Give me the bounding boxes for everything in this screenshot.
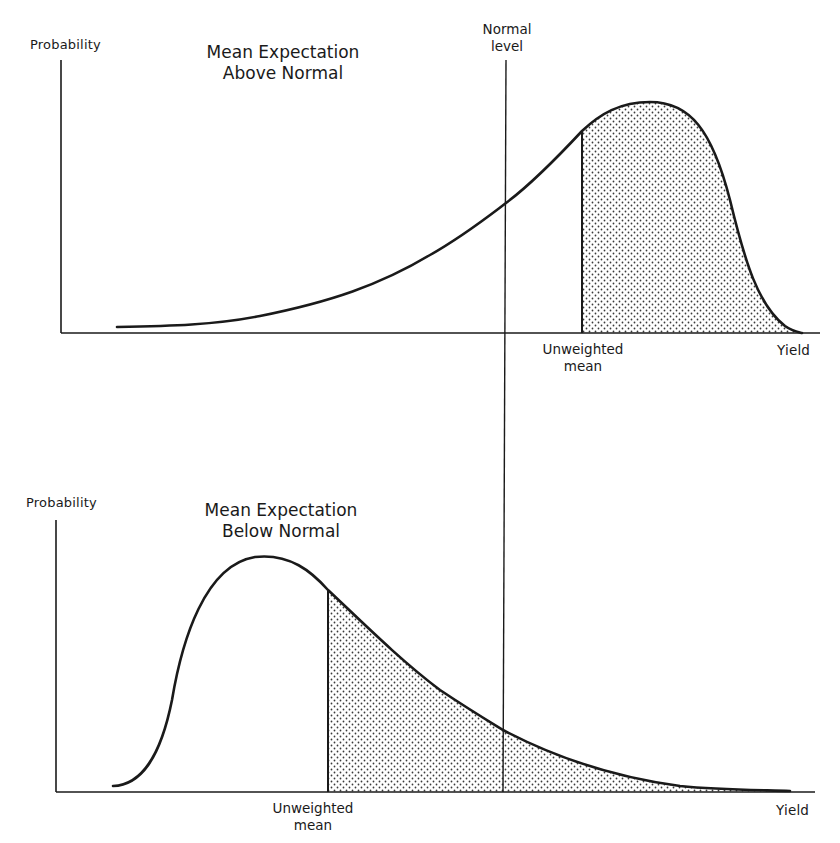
- bottom-x-axis-label: Yield: [776, 802, 809, 818]
- bottom-y-axis-label: Probability: [26, 495, 97, 510]
- bottom-unweighted-mean-label: Unweighted mean: [258, 800, 368, 834]
- top-marker-line2: mean: [528, 358, 638, 375]
- top-marker-line1: Unweighted: [528, 341, 638, 358]
- normal-level-line2: level: [472, 38, 542, 55]
- bottom-title-line2: Below Normal: [186, 521, 376, 542]
- bottom-shaded-area: [328, 590, 790, 792]
- normal-level-line1: Normal: [472, 21, 542, 38]
- bottom-marker-line1: Unweighted: [258, 800, 368, 817]
- bottom-marker-line2: mean: [258, 817, 368, 834]
- top-panel: [61, 60, 820, 333]
- normal-level-line: [503, 60, 506, 792]
- top-panel-title: Mean Expectation Above Normal: [188, 42, 378, 84]
- top-title-line1: Mean Expectation: [188, 42, 378, 63]
- top-y-axis-label: Probability: [30, 37, 101, 52]
- diagram-canvas: [0, 0, 840, 843]
- bottom-panel: [56, 520, 815, 792]
- top-unweighted-mean-label: Unweighted mean: [528, 341, 638, 375]
- top-x-axis-label: Yield: [777, 342, 810, 358]
- top-shaded-area: [582, 102, 802, 333]
- top-title-line2: Above Normal: [188, 63, 378, 84]
- bottom-title-line1: Mean Expectation: [186, 500, 376, 521]
- bottom-panel-title: Mean Expectation Below Normal: [186, 500, 376, 542]
- normal-level-label: Normal level: [472, 21, 542, 55]
